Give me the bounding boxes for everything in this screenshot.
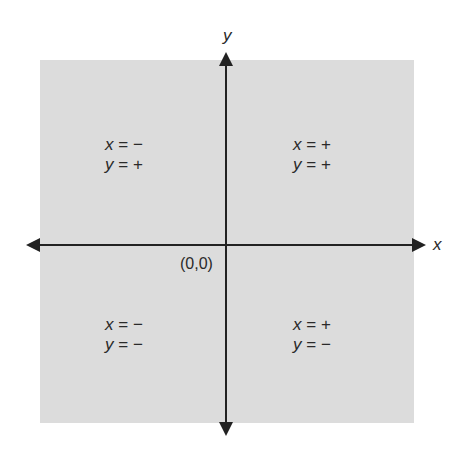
- axes: [0, 0, 463, 458]
- y-sign: = −: [118, 335, 143, 354]
- x-sign: = −: [118, 315, 143, 334]
- y-variable: y: [293, 335, 302, 354]
- y-variable: y: [293, 155, 302, 174]
- x-axis-right-arrow-icon: [412, 238, 426, 252]
- x-sign: = −: [118, 135, 143, 154]
- x-variable: x: [293, 135, 302, 154]
- quadrant-top-right: x = + y = +: [293, 135, 331, 175]
- origin-label: (0,0): [180, 255, 213, 273]
- quadrant-bottom-left: x = − y = −: [105, 315, 143, 355]
- x-variable: x: [293, 315, 302, 334]
- y-sign: = +: [118, 155, 143, 174]
- x-variable: x: [105, 315, 114, 334]
- y-variable: y: [105, 155, 114, 174]
- y-variable: y: [105, 335, 114, 354]
- quadrant-bottom-right: x = + y = −: [293, 315, 331, 355]
- quadrant-top-left: x = − y = +: [105, 135, 143, 175]
- y-sign: = −: [306, 335, 331, 354]
- y-sign: = +: [306, 155, 331, 174]
- x-axis-left-arrow-icon: [26, 238, 40, 252]
- x-sign: = +: [306, 135, 331, 154]
- x-sign: = +: [306, 315, 331, 334]
- x-axis-label: x: [433, 235, 442, 255]
- y-axis-up-arrow-icon: [219, 52, 233, 66]
- y-axis-down-arrow-icon: [219, 422, 233, 436]
- x-variable: x: [105, 135, 114, 154]
- y-axis-label: y: [223, 26, 232, 46]
